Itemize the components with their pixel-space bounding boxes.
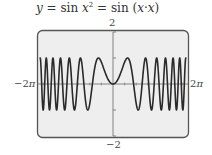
plot-area <box>0 0 212 155</box>
